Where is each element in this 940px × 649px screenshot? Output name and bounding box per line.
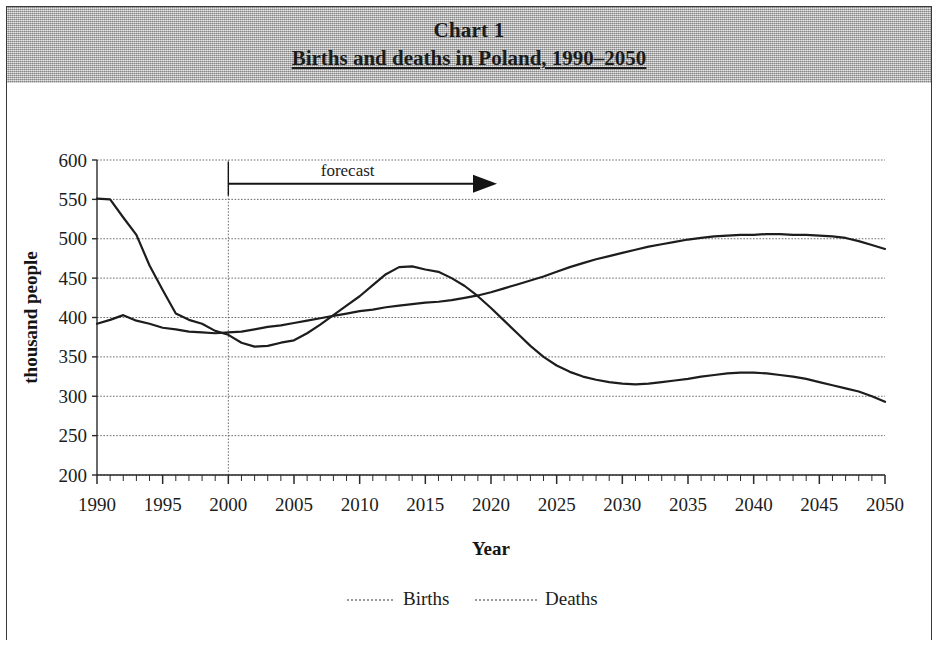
x-axis-tick-label: 2040: [735, 494, 773, 515]
y-axis-tick-label: 250: [59, 425, 88, 446]
chart-header-banner: Chart 1 Births and deaths in Poland, 199…: [7, 7, 931, 83]
x-axis-tick-label: 2025: [538, 494, 576, 515]
y-axis-tick-label: 400: [59, 307, 88, 328]
y-axis-tick-marks: [92, 160, 97, 475]
y-axis-title: thousand people: [20, 251, 41, 384]
chart-subtitle: Births and deaths in Poland, 1990–2050: [292, 45, 647, 71]
x-axis-tick-label: 2045: [800, 494, 838, 515]
x-axis-tick-label: 2010: [341, 494, 379, 515]
chart-number-title: Chart 1: [434, 18, 505, 42]
chart-page: Chart 1 Births and deaths in Poland, 199…: [0, 0, 940, 649]
chart-plot-area: forecast 200250300350400450500550600 199…: [7, 84, 931, 640]
x-axis-title: Year: [472, 538, 511, 559]
x-axis-tick-label: 2030: [603, 494, 641, 515]
legend-label-births: Births: [403, 588, 449, 609]
x-axis-tick-label: 2005: [275, 494, 313, 515]
x-axis-tick-labels: 1990199520002005201020152020202520302035…: [78, 494, 904, 515]
x-axis-tick-label: 2020: [472, 494, 510, 515]
x-axis-minor-ticks: [97, 475, 885, 484]
series-line-deaths: [97, 234, 885, 333]
line-chart-svg: forecast 200250300350400450500550600 199…: [7, 84, 931, 640]
forecast-annotation-label: forecast: [321, 161, 375, 180]
chart-legend: Births Deaths: [347, 588, 598, 609]
x-axis-tick-label: 2035: [669, 494, 707, 515]
y-axis-tick-label: 450: [59, 268, 88, 289]
x-axis-tick-label: 2000: [209, 494, 247, 515]
y-axis-tick-label: 600: [59, 150, 88, 171]
x-axis-tick-label: 2015: [406, 494, 444, 515]
legend-label-deaths: Deaths: [545, 588, 598, 609]
x-axis-tick-label: 1995: [144, 494, 182, 515]
y-axis-tick-labels: 200250300350400450500550600: [59, 150, 88, 486]
x-axis-tick-label: 1990: [78, 494, 116, 515]
y-axis-tick-label: 200: [59, 465, 88, 486]
y-axis-tick-label: 550: [59, 189, 88, 210]
y-axis-tick-label: 500: [59, 228, 88, 249]
y-axis-tick-label: 300: [59, 386, 88, 407]
series-line-births: [97, 199, 885, 402]
horizontal-gridlines: [97, 160, 885, 475]
y-axis-tick-label: 350: [59, 346, 88, 367]
x-axis-tick-label: 2050: [866, 494, 904, 515]
